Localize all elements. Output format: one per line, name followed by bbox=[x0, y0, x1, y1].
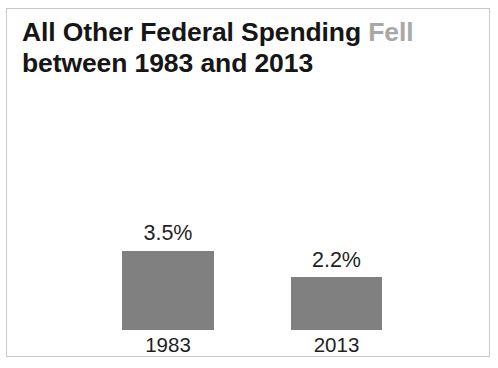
slide-canvas: All Other Federal Spending Fell between … bbox=[0, 0, 498, 368]
bar-2013[interactable] bbox=[291, 277, 382, 330]
bar-value-label-1983: 3.5% bbox=[122, 221, 214, 245]
bar-category-label-2013: 2013 bbox=[291, 333, 382, 357]
bar-chart-plot-area: 3.5% 1983 2.2% 2013 bbox=[0, 0, 498, 368]
bar-value-label-2013: 2.2% bbox=[291, 248, 382, 272]
bar-category-label-1983: 1983 bbox=[122, 333, 214, 357]
bar-1983[interactable] bbox=[122, 251, 214, 330]
